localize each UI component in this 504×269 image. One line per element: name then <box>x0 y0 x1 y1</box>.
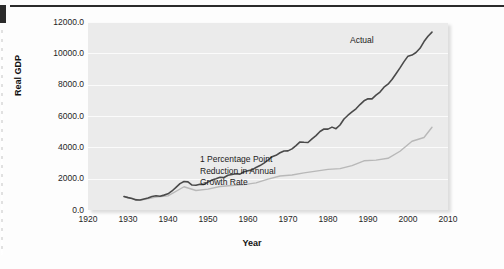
x-axis-tick-label: 1920 <box>68 214 108 225</box>
chart-figure: 0.02000.04000.06000.08000.010000.012000.… <box>0 0 504 269</box>
annotation-counterfactual-line1: 1 Percentage Point <box>200 154 276 166</box>
y-axis-title: Real GDP <box>13 55 23 96</box>
x-axis-tick-label: 1980 <box>308 214 348 225</box>
x-axis-tick-label: 2010 <box>428 214 468 225</box>
plot-area: Actual 1 Percentage Point Reduction in A… <box>88 22 448 210</box>
y-axis-tick-label: 6000.0 <box>22 112 84 121</box>
page-background: 0.02000.04000.06000.08000.010000.012000.… <box>0 0 504 269</box>
annotation-actual: Actual <box>350 35 374 47</box>
y-axis-tick-label: 4000.0 <box>22 143 84 152</box>
x-axis-tick-label: 1950 <box>188 214 228 225</box>
x-axis-tick-label: 1970 <box>268 214 308 225</box>
annotation-counterfactual: 1 Percentage Point Reduction in Annual G… <box>200 154 276 189</box>
annotation-counterfactual-line3: Growth Rate <box>200 177 276 189</box>
series-line-counterfactual <box>124 127 432 200</box>
y-axis-tick-label: 10000.0 <box>22 49 84 58</box>
x-axis-tick-label: 1940 <box>148 214 188 225</box>
x-axis-tick-label: 1960 <box>228 214 268 225</box>
series-line-actual <box>124 32 432 200</box>
y-axis-tick-label: 12000.0 <box>22 18 84 27</box>
y-axis-tick-label: 8000.0 <box>22 80 84 89</box>
y-axis-tick-label: 2000.0 <box>22 174 84 183</box>
y-axis-tick-labels: 0.02000.04000.06000.08000.010000.012000.… <box>20 22 84 210</box>
x-axis-tick-labels: 1920193019401950196019701980199020002010 <box>88 214 448 228</box>
x-axis-title: Year <box>0 238 504 248</box>
x-axis-tick-label: 1930 <box>108 214 148 225</box>
annotation-counterfactual-line2: Reduction in Annual <box>200 166 276 178</box>
x-axis-tick-label: 2000 <box>388 214 428 225</box>
x-axis-tick-label: 1990 <box>348 214 388 225</box>
